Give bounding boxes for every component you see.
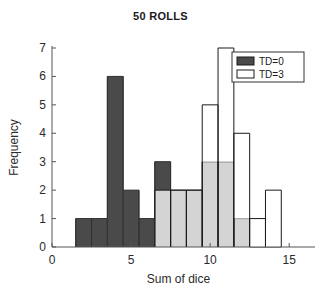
x-tick-label: 10 [203, 253, 217, 267]
bar-td0-overlap [202, 162, 218, 247]
plot-area: 01234567051015Sum of diceFrequencyTD=0TD… [0, 0, 321, 302]
bar-td3-fill [250, 219, 266, 247]
x-tick-label: 0 [49, 253, 56, 267]
bar-td0 [92, 219, 108, 247]
bar-td0 [123, 190, 139, 247]
x-tick-label: 15 [283, 253, 297, 267]
histogram-figure: 50 ROLLS 01234567051015Sum of diceFreque… [0, 0, 321, 302]
bar-td3-fill [265, 190, 281, 247]
bar-td3-fill [234, 133, 250, 218]
y-tick-label: 5 [39, 98, 46, 112]
legend-swatch-1 [237, 70, 254, 78]
x-axis-label: Sum of dice [147, 272, 211, 286]
bar-td3-fill [202, 105, 218, 162]
plot-svg: 01234567051015Sum of diceFrequencyTD=0TD… [0, 0, 321, 302]
bar-td0-overlap [155, 190, 171, 247]
y-tick-label: 0 [39, 240, 46, 254]
y-tick-label: 3 [39, 155, 46, 169]
y-tick-label: 1 [39, 212, 46, 226]
bar-td0 [139, 219, 155, 247]
y-tick-label: 2 [39, 183, 46, 197]
legend-swatch-0 [237, 57, 254, 65]
y-tick-label: 4 [39, 126, 46, 140]
bar-td0-overlap [171, 190, 187, 247]
x-tick-label: 5 [128, 253, 135, 267]
bar-td0 [107, 76, 123, 247]
bar-td0-overlap [234, 219, 250, 247]
bar-td0 [76, 219, 92, 247]
legend-label-1: TD=3 [259, 69, 284, 80]
bar-td0 [155, 162, 171, 190]
bar-td0-overlap [186, 190, 202, 247]
y-tick-label: 6 [39, 69, 46, 83]
bar-td3-fill [218, 48, 234, 162]
legend-label-0: TD=0 [259, 56, 284, 67]
bar-td0-overlap [218, 162, 234, 247]
y-axis-label: Frequency [7, 119, 21, 176]
y-tick-label: 7 [39, 41, 46, 55]
